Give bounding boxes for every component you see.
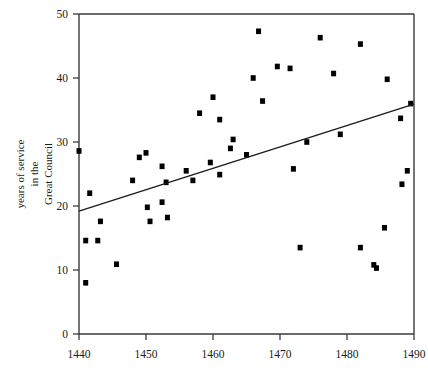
data-point-marker <box>338 132 343 138</box>
x-tick-label: 1460 <box>202 348 225 360</box>
y-tick-label: 20 <box>57 200 69 212</box>
y-tick-label: 30 <box>57 136 69 148</box>
data-point-marker <box>298 245 303 251</box>
data-point-marker <box>256 28 261 34</box>
axis-lines <box>79 14 414 334</box>
x-axis-ticks: 144014501460147014801490 <box>68 334 426 360</box>
data-point-marker <box>358 245 363 251</box>
data-point-marker <box>130 178 135 184</box>
trend-line <box>79 104 414 211</box>
data-point-marker <box>217 117 222 123</box>
data-point-marker <box>382 225 387 231</box>
data-point-marker <box>83 238 88 244</box>
data-point-marker <box>160 164 165 170</box>
data-point-marker <box>304 139 309 145</box>
data-point-marker <box>87 190 92 196</box>
regression-trend-line <box>79 104 414 211</box>
y-tick-label: 40 <box>57 72 69 84</box>
scatter-plot-figure: years of servicein theGreat Council 0102… <box>0 0 428 373</box>
y-axis-label: years of servicein theGreat Council <box>14 139 54 208</box>
x-tick-label: 1450 <box>135 348 158 360</box>
data-point-marker <box>211 94 216 100</box>
y-axis-label-line: in the <box>28 162 40 187</box>
y-axis-label-line: Great Council <box>42 143 54 205</box>
data-point-marker <box>114 261 119 267</box>
data-points <box>77 28 414 285</box>
y-axis-ticks: 01020304050 <box>57 8 80 340</box>
x-tick-label: 1490 <box>403 348 426 360</box>
plot-canvas: years of servicein theGreat Council 0102… <box>0 0 428 373</box>
data-point-marker <box>137 155 142 161</box>
data-point-marker <box>165 215 170 221</box>
data-point-marker <box>374 265 379 271</box>
data-point-marker <box>228 146 233 152</box>
data-point-marker <box>291 166 296 172</box>
data-point-marker <box>144 150 149 156</box>
x-tick-label: 1480 <box>336 348 359 360</box>
data-point-marker <box>77 148 82 154</box>
y-tick-label: 0 <box>62 328 68 340</box>
y-tick-label: 50 <box>57 8 69 20</box>
data-point-marker <box>208 160 213 166</box>
data-point-marker <box>197 110 202 116</box>
data-point-marker <box>398 116 403 122</box>
data-point-marker <box>145 204 150 210</box>
data-point-marker <box>190 178 195 184</box>
data-point-marker <box>98 219 103 225</box>
data-point-marker <box>148 219 153 225</box>
data-point-marker <box>399 181 404 187</box>
data-point-marker <box>251 75 256 81</box>
data-point-marker <box>95 238 100 244</box>
data-point-marker <box>260 98 265 104</box>
data-point-marker <box>288 66 293 72</box>
data-point-marker <box>217 172 222 178</box>
x-tick-label: 1470 <box>269 348 292 360</box>
data-point-marker <box>275 64 280 70</box>
data-point-marker <box>318 35 323 41</box>
y-axis-label-line: years of service <box>14 139 26 208</box>
data-point-marker <box>231 137 236 143</box>
data-point-marker <box>405 168 410 174</box>
y-tick-label: 10 <box>57 264 69 276</box>
data-point-marker <box>184 168 189 174</box>
data-point-marker <box>160 199 165 205</box>
data-point-marker <box>83 280 88 286</box>
data-point-marker <box>385 76 390 82</box>
x-tick-label: 1440 <box>68 348 91 360</box>
data-point-marker <box>331 71 336 77</box>
data-point-marker <box>358 41 363 47</box>
